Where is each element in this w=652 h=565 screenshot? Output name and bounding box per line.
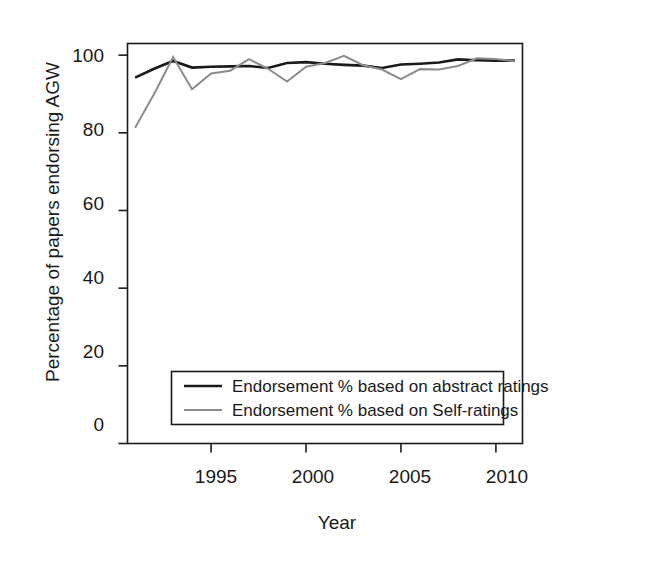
y-tick-marks [119,55,128,443]
legend-label-self-ratings: Endorsement % based on Self-ratings [232,401,518,420]
chart-legend: Endorsement % based on abstract ratings … [172,372,549,425]
plot-area: Endorsement % based on abstract ratings … [0,0,652,565]
chart-figure: Percentage of papers endorsing AGW Year … [0,0,652,565]
data-series-group [135,56,515,128]
x-tick-marks [211,444,496,453]
legend-label-abstract-ratings: Endorsement % based on abstract ratings [232,377,549,396]
